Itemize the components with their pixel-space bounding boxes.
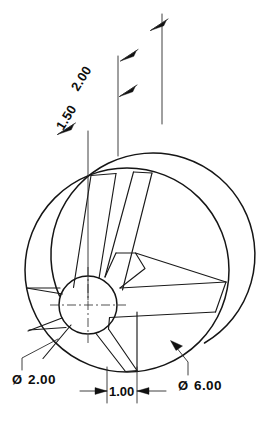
hub-web-facet-lower — [109, 318, 110, 330]
arrow-mid-upper — [121, 50, 139, 62]
spoke-right-upper-edge — [120, 282, 226, 288]
outer-diameter-dimension-group: Ø 6.00 — [171, 341, 222, 394]
dimension-label-outer-diameter: 6.00 — [194, 378, 222, 393]
spoke-upper-left-rear-edge — [99, 174, 116, 279]
spoke-lower-left-edge — [43, 325, 71, 359]
spoke-assembly-group — [27, 172, 227, 372]
spoke-right-lower-edge — [110, 312, 216, 318]
spoke-right-rim-end — [216, 282, 227, 312]
hub-bore-dimension-group: Ø 2.00 — [12, 339, 58, 387]
technical-drawing-canvas: 2.00 1.50 Ø 2.00 1.00 Ø 6.00 — [0, 0, 275, 426]
rear-face-outline-group — [51, 153, 255, 343]
arrow-rear-face — [151, 19, 169, 31]
spoke-lower-rear-edge — [109, 329, 138, 371]
diameter-symbol-outer: Ø — [178, 378, 188, 393]
arrow-outer-diameter — [171, 341, 183, 351]
dimension-label-web-thickness: 1.00 — [109, 384, 134, 399]
spoke-upper-right-end-chord — [134, 172, 153, 173]
engineering-drawing-svg: 2.00 1.50 Ø 2.00 1.00 Ø 6.00 — [0, 0, 275, 426]
dimension-label-2-00: 2.00 — [68, 63, 95, 93]
diameter-symbol-hub: Ø — [12, 372, 22, 387]
arrow-2-00 — [120, 85, 138, 97]
spoke-lower-front-edge — [96, 334, 126, 372]
arrow-web-left — [95, 388, 107, 395]
hub-web-facet-right — [136, 253, 227, 282]
dimension-label-1-50: 1.50 — [53, 102, 80, 132]
rear-face-circle-arc — [51, 153, 255, 343]
dimension-label-hub-bore: 2.00 — [28, 372, 56, 387]
leader-line-hub-bore — [22, 339, 58, 370]
arrow-web-right — [137, 388, 149, 395]
spoke-upper-right-rear-edge — [123, 173, 153, 290]
